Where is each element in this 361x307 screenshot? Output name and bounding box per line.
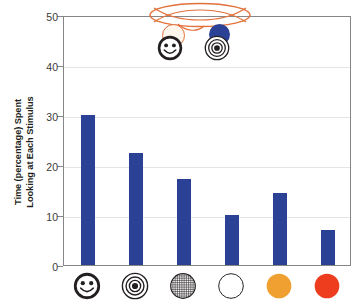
annotation-left-pair (156, 24, 200, 68)
bullseye-icon (204, 35, 230, 61)
y-axis-title: Time (percentage) Spent Looking at Each … (6, 52, 42, 252)
y-axis-tick-label: 10 (46, 211, 58, 223)
orange-circle-icon (265, 272, 293, 300)
smiley-face-icon (157, 35, 183, 61)
smiley-face-icon (73, 272, 101, 300)
bar (81, 115, 95, 266)
y-axis-title-line-1: Time (percentage) Spent (13, 96, 25, 207)
y-axis-tick-label: 30 (46, 111, 58, 123)
y-axis-tick-label: 20 (46, 161, 58, 173)
annotation-right-pair (201, 24, 245, 68)
red-circle-icon (313, 272, 341, 300)
white-circle-icon (217, 272, 245, 300)
bar (177, 179, 191, 266)
top-annotation (148, 2, 253, 68)
y-axis-title-line-2: Looking at Each Stimulus (24, 96, 36, 207)
y-axis-tick-label: 50 (46, 11, 58, 23)
y-axis-tick-label: 40 (46, 61, 58, 73)
bar (225, 215, 239, 266)
x-axis-category-icons (63, 270, 351, 304)
hatched-grid-circle-icon (169, 272, 197, 300)
bar (273, 193, 287, 266)
y-axis-tick-label: 0 (52, 261, 58, 273)
bullseye-icon (121, 272, 149, 300)
bar (129, 153, 143, 265)
bar-chart-figure: Time (percentage) Spent Looking at Each … (0, 0, 361, 307)
bar (321, 230, 335, 265)
